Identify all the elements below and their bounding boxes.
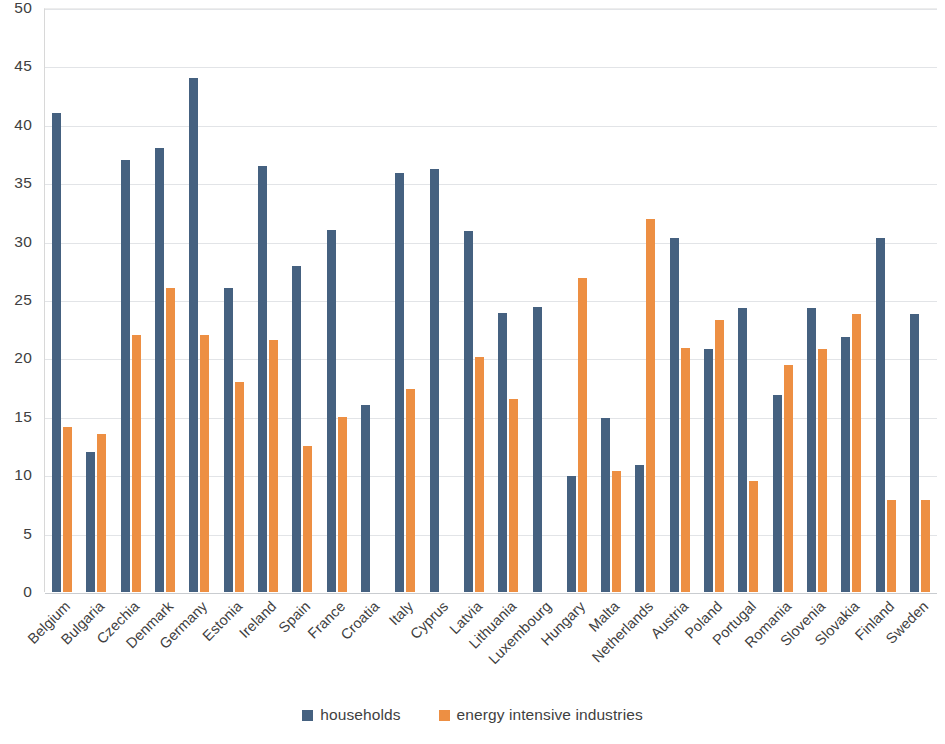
bar-households <box>704 349 713 592</box>
legend-swatch-icon <box>302 710 313 721</box>
y-tick-label: 30 <box>14 233 32 251</box>
bar-households <box>738 308 747 592</box>
bar-industries <box>852 314 861 592</box>
bar-group <box>114 8 148 592</box>
bar-group <box>800 8 834 592</box>
x-tick: Finland <box>869 594 903 694</box>
bar-group <box>182 8 216 592</box>
bar-industries <box>715 320 724 592</box>
bar-industries <box>475 357 484 592</box>
bar-chart: 05101520253035404550 BelgiumBulgariaCzec… <box>0 0 945 744</box>
x-tick: Croatia <box>354 594 388 694</box>
y-tick-label: 20 <box>14 349 32 367</box>
bar-group <box>766 8 800 592</box>
x-tick: Estonia <box>217 594 251 694</box>
bar-group <box>525 8 559 592</box>
bar-households <box>395 173 404 592</box>
bar-group <box>320 8 354 592</box>
y-tick-label: 0 <box>23 583 32 601</box>
bar-group <box>388 8 422 592</box>
bar-households <box>670 238 679 592</box>
y-tick-label: 40 <box>14 116 32 134</box>
bar-group <box>731 8 765 592</box>
bar-group <box>594 8 628 592</box>
bar-households <box>773 395 782 592</box>
x-tick: Slovenia <box>800 594 834 694</box>
y-tick-label: 5 <box>23 525 32 543</box>
bar-group <box>251 8 285 592</box>
bar-industries <box>166 288 175 592</box>
y-tick-label: 10 <box>14 466 32 484</box>
bar-industries <box>749 481 758 592</box>
bar-group <box>663 8 697 592</box>
y-tick-label: 45 <box>14 57 32 75</box>
bar-households <box>635 465 644 592</box>
bar-industries <box>921 500 930 592</box>
bars-layer <box>45 8 937 592</box>
bar-group <box>834 8 868 592</box>
bar-households <box>189 78 198 592</box>
legend-label: households <box>320 706 400 724</box>
x-tick: Germany <box>182 594 216 694</box>
bar-households <box>807 308 816 592</box>
bar-group <box>869 8 903 592</box>
y-axis: 05101520253035404550 <box>0 8 40 592</box>
x-tick: Hungary <box>560 594 594 694</box>
x-tick: Poland <box>697 594 731 694</box>
bar-households <box>155 148 164 592</box>
bar-group <box>354 8 388 592</box>
x-tick: France <box>320 594 354 694</box>
bar-industries <box>887 500 896 592</box>
bar-households <box>224 288 233 592</box>
bar-group <box>457 8 491 592</box>
legend-swatch-icon <box>439 710 450 721</box>
bar-households <box>52 113 61 592</box>
bar-households <box>258 166 267 592</box>
bar-industries <box>303 446 312 592</box>
bar-industries <box>269 340 278 592</box>
bar-industries <box>612 471 621 592</box>
x-tick: Luxembourg <box>525 594 559 694</box>
legend-item[interactable]: households <box>302 706 400 724</box>
bar-industries <box>681 348 690 592</box>
bar-households <box>876 238 885 592</box>
bar-households <box>601 418 610 592</box>
y-tick-label: 25 <box>14 291 32 309</box>
bar-group <box>697 8 731 592</box>
x-tick: Bulgaria <box>79 594 113 694</box>
bar-industries <box>132 335 141 592</box>
bar-households <box>533 307 542 592</box>
bar-households <box>841 337 850 592</box>
x-tick: Netherlands <box>628 594 662 694</box>
x-tick: Sweden <box>903 594 937 694</box>
bar-industries <box>509 399 518 592</box>
bar-households <box>498 313 507 592</box>
bar-industries <box>200 335 209 592</box>
x-axis: BelgiumBulgariaCzechiaDenmarkGermanyEsto… <box>45 594 937 694</box>
x-tick: Austria <box>663 594 697 694</box>
y-tick-label: 15 <box>14 408 32 426</box>
bar-group <box>79 8 113 592</box>
bar-group <box>45 8 79 592</box>
bar-industries <box>784 365 793 592</box>
legend-item[interactable]: energy intensive industries <box>439 706 643 724</box>
bar-group <box>217 8 251 592</box>
x-tick: Spain <box>285 594 319 694</box>
bar-households <box>121 160 130 592</box>
bar-group <box>560 8 594 592</box>
legend-label: energy intensive industries <box>457 706 643 724</box>
bar-industries <box>818 349 827 592</box>
bar-group <box>285 8 319 592</box>
bar-industries <box>338 417 347 592</box>
bar-households <box>361 405 370 592</box>
bar-households <box>910 314 919 592</box>
x-tick: Slovakia <box>834 594 868 694</box>
x-tick: Ireland <box>251 594 285 694</box>
bar-industries <box>406 389 415 592</box>
x-tick-label: Italy <box>386 598 416 628</box>
bar-industries <box>646 219 655 592</box>
x-tick: Cyprus <box>422 594 456 694</box>
x-tick: Belgium <box>45 594 79 694</box>
bar-households <box>430 169 439 592</box>
bar-group <box>491 8 525 592</box>
